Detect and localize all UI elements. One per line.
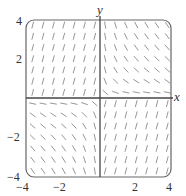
slope-segment [166, 134, 168, 141]
slope-segment [156, 145, 158, 152]
slope-segment [32, 44, 34, 51]
slope-segment [123, 92, 130, 94]
slope-segment [115, 145, 117, 152]
slope-segment [53, 67, 55, 74]
slope-segment [146, 134, 148, 141]
slope-segment [73, 33, 75, 40]
slope-segment [105, 44, 106, 51]
slope-segment [144, 45, 148, 51]
slope-segment [62, 135, 67, 140]
slope-segment [42, 22, 44, 29]
slope-segment [125, 145, 127, 152]
slope-segment [94, 145, 95, 152]
slope-segment [164, 92, 171, 93]
slope-segment [83, 156, 85, 163]
slope-segment [115, 134, 117, 141]
slope-segment [125, 134, 127, 141]
slope-segment [83, 134, 86, 140]
slope-segment [94, 134, 96, 141]
slope-segment [145, 33, 149, 39]
slope-segment [114, 67, 118, 73]
slope-segment [154, 92, 161, 93]
slope-segment [30, 113, 36, 117]
slope-segment [51, 157, 55, 163]
slope-segment [125, 100, 127, 107]
slope-segment [30, 124, 35, 129]
slope-segment [94, 112, 97, 119]
slope-segment [166, 111, 168, 118]
slope-segment [125, 22, 128, 28]
slope-segment [94, 156, 95, 163]
slope-segment [73, 22, 75, 29]
slope-segment [52, 168, 56, 174]
slope-segment [135, 123, 137, 130]
slope-segment [135, 111, 137, 118]
slope-segment [32, 67, 34, 74]
slope-segment [156, 168, 158, 175]
slope-segment [104, 168, 106, 175]
slope-segment [115, 100, 117, 107]
slope-segment [61, 124, 66, 129]
slope-segment [114, 33, 116, 40]
slope-segment [104, 67, 106, 74]
slope-segment [84, 44, 86, 51]
slope-segment [31, 168, 35, 174]
slope-segment [133, 79, 139, 83]
slope-segment [62, 157, 66, 163]
slope-segment [155, 22, 159, 28]
slope-segment [50, 113, 56, 117]
slope-segment [92, 101, 97, 106]
slope-segment [154, 79, 160, 83]
slope-segment [104, 111, 106, 118]
slope-segment [63, 78, 65, 85]
slope-segment [84, 168, 86, 175]
slope-segment [135, 156, 137, 163]
x-tick-label: 4 [166, 181, 172, 193]
slope-segment [62, 168, 65, 174]
slope-segment [115, 168, 117, 175]
slope-segment [73, 67, 75, 74]
slope-segment [105, 33, 106, 40]
slope-segment [63, 67, 65, 74]
slope-segment [51, 124, 56, 129]
slope-segment [94, 44, 96, 51]
slope-segment [135, 22, 138, 28]
slope-segment [125, 156, 127, 163]
slope-segment [166, 100, 168, 107]
slope-segment [71, 113, 77, 117]
slope-segment [71, 103, 78, 105]
slope-segment [124, 56, 128, 62]
slope-segment [83, 145, 86, 152]
slope-segment [41, 168, 45, 174]
slope-segment [42, 44, 44, 51]
x-tick-label: 2 [132, 181, 138, 193]
slope-segment [63, 55, 65, 62]
slope-segment [146, 168, 148, 175]
slope-segment [73, 89, 75, 96]
slope-segment [166, 123, 168, 130]
slope-segment [29, 103, 36, 104]
slope-segment [124, 67, 129, 72]
slope-segment [166, 168, 168, 175]
slope-segment [114, 44, 117, 51]
slope-segment [84, 33, 86, 40]
slope-segment [51, 146, 55, 152]
slope-segment [94, 123, 96, 130]
slope-segment [155, 45, 160, 50]
slope-segment [155, 34, 159, 40]
slope-segment [166, 156, 168, 163]
slope-segment [156, 100, 158, 107]
slope-segment [84, 78, 86, 85]
slope-segment [40, 124, 45, 129]
slope-segment [135, 134, 137, 141]
slope-segment [125, 111, 127, 118]
slope-segment [112, 91, 119, 93]
slope-segment [115, 22, 117, 29]
slope-segment [51, 135, 56, 140]
slope-segment [104, 145, 106, 152]
x-tick-label: −2 [53, 181, 66, 193]
slope-segment [30, 146, 35, 151]
slope-segment [94, 55, 96, 62]
slope-segment [62, 146, 66, 152]
slope-segment [166, 145, 168, 152]
